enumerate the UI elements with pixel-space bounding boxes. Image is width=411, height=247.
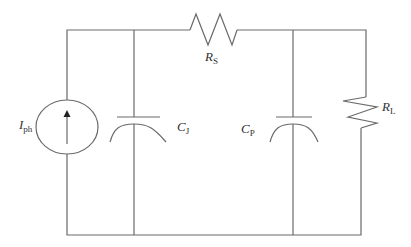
resistor-rl-icon — [343, 97, 377, 128]
label-cp: CP — [241, 122, 255, 138]
label-cj: CJ — [177, 120, 189, 136]
capacitor-cp-icon — [270, 30, 318, 235]
top-wire-left — [67, 30, 190, 100]
resistor-rs-icon — [190, 14, 237, 45]
capacitor-cj-icon — [110, 30, 166, 235]
bottom-wire — [67, 128, 361, 235]
current-source-icon — [36, 100, 98, 154]
circuit-diagram — [0, 0, 411, 247]
label-iph: Iph — [19, 118, 32, 134]
label-rl: RL — [382, 100, 395, 116]
label-rs: RS — [205, 50, 218, 66]
top-wire-right — [237, 30, 366, 97]
